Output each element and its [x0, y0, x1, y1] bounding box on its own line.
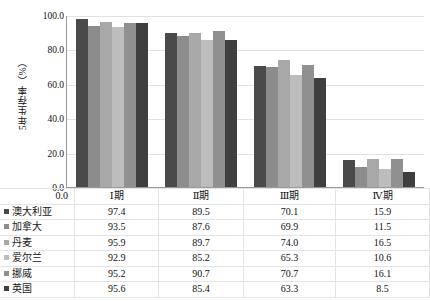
legend-label: 澳大利亚	[12, 206, 52, 217]
table-column-header: Ⅲ期	[243, 189, 335, 205]
chart-page: 5年生存率（%） 0.020.040.060.080.0100.0 0.0 Ⅰ期…	[0, 0, 430, 301]
legend-label: 丹麦	[12, 237, 32, 248]
table-cell: 95.6	[75, 282, 159, 298]
bar	[88, 26, 100, 187]
table-cell: 74.0	[243, 235, 335, 251]
table-cell: 15.9	[336, 204, 430, 220]
bar	[343, 160, 355, 187]
table-cell: 85.2	[159, 251, 243, 267]
bar	[165, 33, 177, 187]
legend-swatch-icon	[4, 224, 9, 229]
bar	[254, 66, 266, 187]
bar	[189, 33, 201, 187]
bar	[266, 67, 278, 187]
table-cell: 89.5	[159, 204, 243, 220]
bar-group	[156, 16, 245, 187]
table-column-header: Ⅳ期	[336, 189, 430, 205]
bar	[76, 19, 88, 187]
table-cell: 63.3	[243, 282, 335, 298]
bar	[278, 60, 290, 187]
table-row: 英国95.685.463.38.5	[0, 282, 430, 298]
legend-entry: 挪威	[0, 266, 75, 282]
legend-entry: 爱尔兰	[0, 251, 75, 267]
table-cell: 10.6	[336, 251, 430, 267]
table-cell: 97.4	[75, 204, 159, 220]
legend-entry: 英国	[0, 282, 75, 298]
table-cell: 87.6	[159, 220, 243, 236]
table-cell: 95.9	[75, 235, 159, 251]
table-cell: 69.9	[243, 220, 335, 236]
bar	[100, 22, 112, 187]
bar	[302, 65, 314, 187]
bar-chart: 5年生存率（%） 0.020.040.060.080.0100.0	[0, 0, 430, 192]
table-cell: 85.4	[159, 282, 243, 298]
data-table-wrap: 0.0 Ⅰ期Ⅱ期Ⅲ期Ⅳ期 澳大利亚97.489.570.115.9加拿大93.5…	[0, 188, 430, 301]
table-cell: 8.5	[336, 282, 430, 298]
table-row: 挪威95.290.770.716.1	[0, 266, 430, 282]
y-tick-label: 100.0	[28, 11, 64, 21]
legend-swatch-icon	[4, 209, 9, 214]
bar	[379, 169, 391, 187]
bar	[314, 78, 326, 187]
axis-zero-label: 0.0	[0, 189, 75, 205]
table-column-header: Ⅰ期	[75, 189, 159, 205]
y-axis-tick-labels: 0.020.040.060.080.0100.0	[28, 10, 64, 188]
legend-label: 爱尔兰	[12, 252, 42, 263]
table-body: 澳大利亚97.489.570.115.9加拿大93.587.669.911.5丹…	[0, 204, 430, 297]
table-row: 丹麦95.989.774.016.5	[0, 235, 430, 251]
y-tick-label: 60.0	[28, 80, 64, 90]
table-row: 澳大利亚97.489.570.115.9	[0, 204, 430, 220]
bar	[177, 36, 189, 187]
bar-group	[246, 16, 335, 187]
table-cell: 11.5	[336, 220, 430, 236]
legend-label: 挪威	[12, 268, 32, 279]
bar	[355, 167, 367, 187]
table-row: 爱尔兰92.985.265.310.6	[0, 251, 430, 267]
table-cell: 95.2	[75, 266, 159, 282]
data-table: 0.0 Ⅰ期Ⅱ期Ⅲ期Ⅳ期 澳大利亚97.489.570.115.9加拿大93.5…	[0, 188, 430, 298]
table-cell: 90.7	[159, 266, 243, 282]
legend-swatch-icon	[4, 271, 9, 276]
bar-group	[335, 16, 424, 187]
table-cell: 93.5	[75, 220, 159, 236]
table-column-header: Ⅱ期	[159, 189, 243, 205]
legend-swatch-icon	[4, 255, 9, 260]
plot-area	[66, 16, 424, 188]
bar	[290, 75, 302, 187]
legend-entry: 丹麦	[0, 235, 75, 251]
legend-entry: 加拿大	[0, 220, 75, 236]
legend-label: 加拿大	[12, 221, 42, 232]
legend-entry: 澳大利亚	[0, 204, 75, 220]
bar	[225, 40, 237, 187]
bar	[201, 40, 213, 187]
table-cell: 89.7	[159, 235, 243, 251]
legend-label: 英国	[12, 283, 32, 294]
table-header-row: 0.0 Ⅰ期Ⅱ期Ⅲ期Ⅳ期	[0, 189, 430, 205]
legend-swatch-icon	[4, 240, 9, 245]
bar	[124, 23, 136, 187]
legend-swatch-icon	[4, 286, 9, 291]
y-tick-label: 80.0	[28, 45, 64, 55]
bar	[403, 172, 415, 187]
y-tick-label: 20.0	[28, 149, 64, 159]
bar-group	[67, 16, 156, 187]
table-cell: 70.1	[243, 204, 335, 220]
bar	[213, 31, 225, 187]
y-tick-label: 40.0	[28, 114, 64, 124]
table-row: 加拿大93.587.669.911.5	[0, 220, 430, 236]
table-cell: 65.3	[243, 251, 335, 267]
table-cell: 16.1	[336, 266, 430, 282]
table-cell: 70.7	[243, 266, 335, 282]
table-cell: 16.5	[336, 235, 430, 251]
bar	[391, 159, 403, 187]
table-cell: 92.9	[75, 251, 159, 267]
bar-groups	[67, 16, 424, 187]
bar	[367, 159, 379, 187]
bar	[136, 23, 148, 187]
bar	[112, 27, 124, 187]
